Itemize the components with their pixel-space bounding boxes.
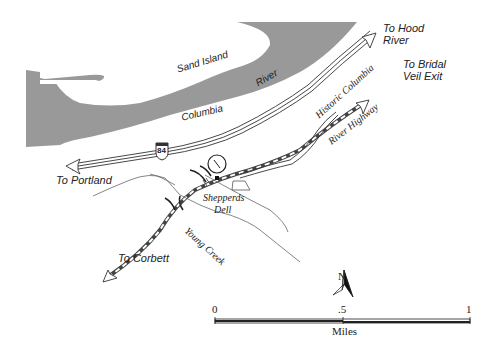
to-portland-arrow	[66, 159, 80, 174]
label-shepperds-dell-line1: Shepperds	[203, 192, 244, 204]
north-arrow-label: N	[338, 270, 346, 282]
scale-tick-1: 1	[466, 303, 472, 315]
label-to-hood-river-line2: River	[383, 34, 409, 46]
scale-tick-half: .5	[338, 303, 346, 315]
parking-marker-icon	[215, 176, 219, 180]
scale-unit-label: Miles	[332, 325, 357, 337]
label-to-portland: To Portland	[56, 174, 112, 186]
label-to-bridal-veil-line2: Veil Exit	[403, 70, 442, 82]
sand-island-sliver	[40, 80, 101, 84]
map: Sand Island Columbia River To Hood River…	[0, 0, 494, 352]
label-to-hood-river-line1: To Hood	[383, 22, 424, 34]
scale-bar	[215, 317, 470, 324]
label-to-bridal-veil-line1: To Bridal	[403, 58, 446, 70]
scale-tick-0: 0	[212, 303, 218, 315]
interstate-shield-number: 84	[157, 145, 166, 157]
viewpoint-mark	[214, 160, 220, 168]
label-shepperds-dell-line2: Dell	[214, 204, 231, 216]
shepperds-dell-building	[232, 181, 250, 190]
columbia-river-water	[26, 22, 357, 147]
label-to-corbett: To Corbett	[118, 252, 169, 264]
